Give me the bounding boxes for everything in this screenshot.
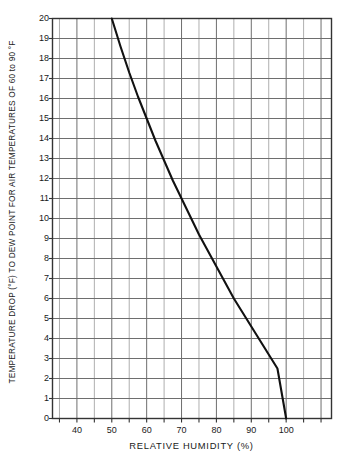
x-tick-label: 100 [269, 426, 303, 435]
x-axis-title: RELATIVE HUMIDITY (%) [52, 440, 331, 451]
x-tick-label: 90 [234, 426, 268, 435]
x-tick-label: 80 [199, 426, 233, 435]
chart-figure: TEMPERATURE DROP (°F) TO DEW POINT FOR A… [0, 0, 354, 463]
x-tick-label: 40 [60, 426, 94, 435]
x-axis-tick-labels: 405060708090100 [0, 0, 354, 463]
x-tick-label: 60 [130, 426, 164, 435]
x-tick-label: 70 [165, 426, 199, 435]
x-tick-label: 50 [95, 426, 129, 435]
